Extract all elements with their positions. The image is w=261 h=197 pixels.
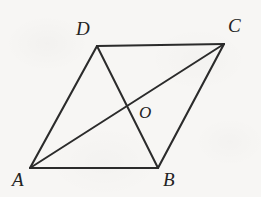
vertex-label-a: A	[12, 170, 24, 189]
geometry-figure: A B C D O	[0, 0, 261, 197]
intersection-label-o: O	[139, 104, 151, 121]
vertex-label-d: D	[76, 19, 90, 38]
vertex-label-b: B	[163, 170, 175, 189]
geometry-canvas	[0, 0, 261, 197]
side-dc-line	[97, 44, 224, 46]
vertex-label-c: C	[228, 16, 241, 35]
side-ad-line	[30, 46, 97, 168]
side-cb-line	[158, 44, 224, 168]
